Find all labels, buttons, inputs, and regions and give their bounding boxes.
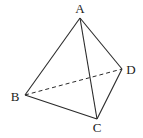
- edge-bc: [25, 95, 97, 119]
- edge-ab: [25, 18, 80, 95]
- vertex-label-a: A: [75, 1, 85, 16]
- edge-ac: [80, 18, 97, 119]
- vertex-label-c: C: [93, 120, 102, 135]
- vertex-label-b: B: [11, 89, 20, 104]
- edge-cd: [97, 69, 122, 119]
- vertex-label-d: D: [126, 62, 135, 77]
- tetrahedron-figure: A B C D: [0, 0, 143, 138]
- tetrahedron-diagram: A B C D: [0, 0, 143, 138]
- edge-ad: [80, 18, 122, 69]
- edge-bd-hidden: [25, 69, 122, 95]
